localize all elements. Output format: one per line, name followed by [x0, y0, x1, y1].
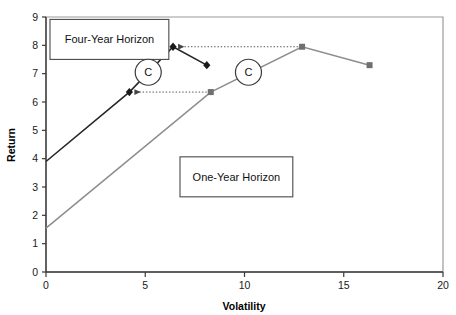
y-tick-label: 9 [32, 11, 38, 23]
annotation-label: One-Year Horizon [193, 171, 281, 183]
y-tick-label: 7 [32, 67, 38, 79]
data-point-marker [208, 89, 214, 95]
annotation-box: Four-Year Horizon [50, 19, 169, 59]
x-tick-label: 15 [338, 279, 350, 291]
y-tick-label: 4 [32, 152, 38, 164]
y-tick-label: 6 [32, 96, 38, 108]
annotation-box: One-Year Horizon [180, 157, 293, 197]
x-tick-label: 10 [239, 279, 251, 291]
x-tick-label: 5 [142, 279, 148, 291]
return-vs-volatility-chart: 0123456789 05101520 Four-Year HorizonOne… [0, 0, 456, 315]
y-tick-label: 1 [32, 237, 38, 249]
c-marker-label: C [144, 66, 152, 78]
y-tick-label: 0 [32, 266, 38, 278]
annotation-label: Four-Year Horizon [65, 33, 154, 45]
y-tick-label: 8 [32, 39, 38, 51]
c-marker: C [135, 59, 161, 85]
data-point-marker [299, 44, 305, 50]
y-axis-title: Return [5, 128, 17, 162]
y-tick-label: 2 [32, 209, 38, 221]
x-tick-label: 0 [43, 279, 49, 291]
chart-container: 0123456789 05101520 Four-Year HorizonOne… [0, 0, 456, 315]
y-tick-label: 3 [32, 181, 38, 193]
y-tick-label: 5 [32, 124, 38, 136]
x-axis-title: Volatility [223, 300, 266, 312]
c-marker-label: C [244, 66, 252, 78]
data-point-marker [367, 62, 373, 68]
c-marker: C [235, 59, 261, 85]
x-tick-label: 20 [437, 279, 449, 291]
